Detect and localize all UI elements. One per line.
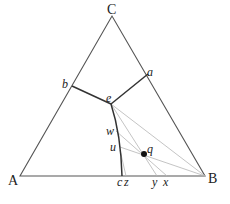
tieline-e-y (111, 104, 157, 176)
point-label-c: c (117, 175, 123, 189)
tie-lines (111, 104, 205, 176)
tieline-e-B (111, 104, 205, 176)
point-label-b: b (62, 77, 68, 91)
point-label-y: y (151, 175, 158, 189)
boundary-a-e (111, 74, 148, 104)
point-label-a: a (147, 65, 153, 79)
point-label-w: w (106, 124, 114, 138)
point-label-q: q (147, 142, 153, 156)
point-label-z: z (123, 175, 129, 189)
point-label-x: x (162, 175, 169, 189)
vertex-label-A: A (8, 173, 19, 188)
point-label-u: u (110, 140, 116, 154)
ternary-diagram: C A B a b e w u q c z y x (0, 0, 230, 204)
point-label-e: e (106, 91, 112, 105)
vertex-label-C: C (107, 2, 116, 17)
vertex-label-B: B (208, 171, 217, 186)
